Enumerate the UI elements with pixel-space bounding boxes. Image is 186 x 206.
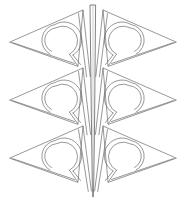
- ornament-figure: Symmetric heraldic line-art ornament Thr…: [0, 0, 186, 206]
- ornament-drawing: [0, 0, 186, 206]
